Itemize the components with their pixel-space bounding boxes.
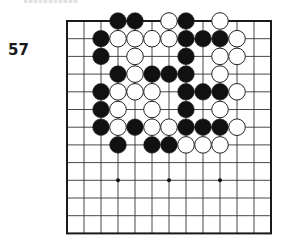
white-stone [229, 30, 246, 47]
black-stone [110, 137, 127, 154]
black-stone [178, 48, 195, 65]
white-stone [195, 137, 212, 154]
star-point [167, 178, 171, 182]
black-stone [178, 101, 195, 118]
black-stone [178, 119, 195, 136]
white-stone [127, 30, 144, 47]
black-stone [212, 84, 229, 101]
white-stone [212, 13, 229, 30]
white-stone [161, 30, 178, 47]
white-stone [161, 119, 178, 136]
black-stone [161, 137, 178, 154]
star-point [116, 178, 120, 182]
black-stone [161, 66, 178, 83]
black-stone [144, 137, 161, 154]
black-stone [195, 30, 212, 47]
white-stone [144, 101, 161, 118]
black-stone [178, 66, 195, 83]
black-stone [127, 13, 144, 30]
black-stone [195, 119, 212, 136]
black-stone [110, 66, 127, 83]
white-stone [212, 101, 229, 118]
black-stone [110, 13, 127, 30]
white-stone [127, 48, 144, 65]
white-stone [229, 48, 246, 65]
white-stone [110, 101, 127, 118]
white-stone [161, 13, 178, 30]
black-stone [178, 84, 195, 101]
white-stone [144, 119, 161, 136]
white-stone [110, 30, 127, 47]
black-stone [195, 84, 212, 101]
go-board [0, 0, 285, 246]
black-stone [93, 119, 110, 136]
black-stone [178, 13, 195, 30]
white-stone [127, 84, 144, 101]
white-stone [178, 137, 195, 154]
black-stone [127, 119, 144, 136]
white-stone [144, 30, 161, 47]
black-stone [212, 119, 229, 136]
white-stone [229, 84, 246, 101]
star-point [218, 178, 222, 182]
black-stone [212, 30, 229, 47]
white-stone [212, 137, 229, 154]
white-stone [212, 66, 229, 83]
black-stone [178, 30, 195, 47]
black-stone [93, 48, 110, 65]
white-stone [212, 48, 229, 65]
white-stone [127, 66, 144, 83]
black-stone [93, 84, 110, 101]
white-stone [229, 119, 246, 136]
black-stone [144, 66, 161, 83]
white-stone [144, 84, 161, 101]
white-stone [110, 119, 127, 136]
black-stone [93, 30, 110, 47]
black-stone [93, 101, 110, 118]
white-stone [110, 84, 127, 101]
